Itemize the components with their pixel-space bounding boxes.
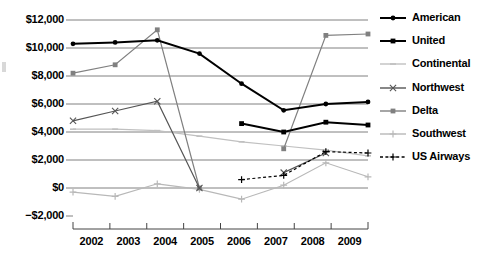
chart-legend: AmericanUnitedContinentalNorthwestDeltaS… <box>378 8 492 170</box>
legend-item-northwest[interactable]: Northwest <box>378 78 492 101</box>
data-point <box>281 146 286 151</box>
legend-swatch-plus-icon <box>378 147 408 167</box>
data-series-layer <box>70 27 372 202</box>
series-line <box>73 163 368 199</box>
data-point <box>155 38 160 43</box>
data-point <box>155 27 160 32</box>
legend-marker <box>390 154 397 161</box>
y-tick-label: −$2,000 <box>0 209 64 221</box>
y-tick-label: $12,000 <box>0 13 64 25</box>
data-point <box>281 130 286 135</box>
y-tick-label: $0 <box>0 181 64 193</box>
series-line <box>284 153 326 173</box>
legend-label: US Airways <box>412 150 470 162</box>
data-point <box>281 108 286 113</box>
data-point <box>323 102 328 107</box>
legend-item-us-airways[interactable]: US Airways <box>378 147 492 170</box>
data-point <box>238 176 245 183</box>
data-point <box>197 51 202 56</box>
series-line <box>242 152 368 180</box>
data-point <box>239 81 244 86</box>
y-tick-label: $10,000 <box>0 41 64 53</box>
legend-marker <box>391 108 396 113</box>
series-line <box>73 30 199 188</box>
legend-label: American <box>412 11 461 23</box>
legend-swatch-plus-icon <box>378 124 408 144</box>
axis-lines <box>66 20 368 229</box>
y-tick-label: $4,000 <box>0 125 64 137</box>
legend-marker <box>390 131 397 138</box>
data-point <box>113 40 118 45</box>
series-southwest <box>70 159 372 202</box>
data-point <box>70 189 77 196</box>
data-point <box>366 100 371 105</box>
gridlines <box>73 20 368 216</box>
legend-item-united[interactable]: United <box>378 31 492 54</box>
legend-item-delta[interactable]: Delta <box>378 101 492 124</box>
data-point <box>280 172 287 179</box>
legend-label: Delta <box>412 104 438 116</box>
y-tick-label: $6,000 <box>0 97 64 109</box>
legend-label: Continental <box>412 57 470 69</box>
legend-item-american[interactable]: American <box>378 8 492 31</box>
legend-swatch-dash-icon <box>378 54 408 74</box>
series-american <box>71 38 371 113</box>
data-point <box>71 41 76 46</box>
line-chart: $12,000$10,000$8,000$6,000$4,000$2,000$0… <box>0 0 492 268</box>
series-line <box>242 122 368 132</box>
data-point <box>154 180 161 187</box>
x-tick-label: 2009 <box>326 235 374 247</box>
legend-marker <box>391 39 396 44</box>
series-line <box>73 40 368 110</box>
legend-label: Southwest <box>412 127 466 139</box>
data-point <box>113 62 118 67</box>
legend-item-southwest[interactable]: Southwest <box>378 124 492 147</box>
data-point <box>112 193 119 200</box>
legend-item-continental[interactable]: Continental <box>378 54 492 77</box>
legend-swatch-circle-icon <box>378 8 408 28</box>
legend-label: United <box>412 34 445 46</box>
data-point <box>323 120 328 125</box>
data-point <box>366 32 371 37</box>
x-tick-marks <box>110 223 331 229</box>
y-tick-label: $8,000 <box>0 69 64 81</box>
legend-swatch-square-icon <box>378 101 408 121</box>
data-point <box>323 33 328 38</box>
data-point <box>239 121 244 126</box>
data-point <box>365 173 372 180</box>
data-point <box>71 71 76 76</box>
data-point <box>366 123 371 128</box>
series-northwest <box>70 98 329 191</box>
series-line <box>73 101 199 188</box>
legend-swatch-square-icon <box>378 31 408 51</box>
legend-label: Northwest <box>412 81 464 93</box>
y-tick-label: $2,000 <box>0 153 64 165</box>
legend-marker <box>391 16 396 21</box>
legend-swatch-x-icon <box>378 78 408 98</box>
data-point <box>238 196 245 203</box>
